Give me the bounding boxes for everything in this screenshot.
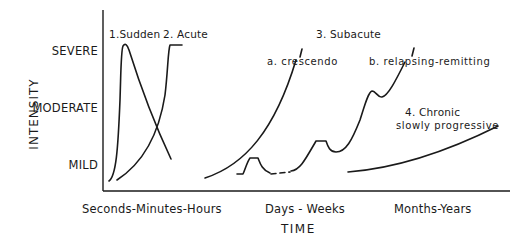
x-tick-short: Seconds-Minutes-Hours <box>82 202 222 216</box>
curve-crescendo <box>205 60 296 178</box>
label-relapsing-remitting: b. relapsing-remitting <box>369 56 490 67</box>
curve-acute <box>117 45 182 180</box>
x-tick-medium: Days - Weeks <box>265 202 345 216</box>
curve-relapsing-part2 <box>291 62 405 171</box>
label-chronic: 4. Chronic <box>405 106 460 118</box>
relapsing-tick <box>412 48 414 56</box>
label-chronic-sub: slowly progressive <box>396 120 499 131</box>
y-tick-severe: SEVERE <box>8 44 98 58</box>
curve-chronic <box>348 126 498 172</box>
x-tick-long: Months-Years <box>394 202 472 216</box>
curve-relapsing-part1 <box>237 158 270 174</box>
y-tick-moderate: MODERATE <box>8 101 98 115</box>
label-sudden: 1.Sudden <box>109 28 160 40</box>
label-subacute: 3. Subacute <box>316 28 381 40</box>
label-acute: 2. Acute <box>163 28 208 40</box>
x-axis-title: TIME <box>281 222 316 236</box>
curve-relapsing-dashed <box>271 172 290 174</box>
label-crescendo: a. crescendo <box>267 56 338 67</box>
y-tick-mild: MILD <box>8 158 98 172</box>
